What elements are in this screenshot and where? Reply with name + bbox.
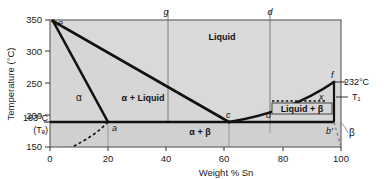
y-tick-350: 350: [26, 14, 42, 25]
region-label-alpha-plus-beta: α + β: [189, 127, 211, 137]
marker-c: [227, 120, 230, 123]
x-axis-title: Weight % Sn: [199, 167, 254, 178]
x-axis-ticks: [50, 147, 341, 151]
point-label-a: a: [112, 123, 117, 133]
region-label-beta: β: [349, 127, 355, 138]
marker-e: [51, 19, 55, 23]
x-tick-20: 20: [103, 153, 114, 164]
y-axis-title: Temperature (°C): [5, 48, 16, 121]
point-label-d-top: d: [267, 7, 273, 17]
y-tick-150: 150: [26, 141, 42, 152]
point-label-c: c: [226, 110, 231, 120]
annotation-eutectic-temp-sub: (Tₑ): [33, 125, 48, 135]
annotation-eutectic-temp: 183°C: [23, 113, 49, 123]
x-tick-100: 100: [333, 153, 349, 164]
phase-diagram-svg: 350 300 250 200 150 0 20 40 60 80 100 Te…: [0, 0, 386, 179]
phase-diagram-figure: 350 300 250 200 150 0 20 40 60 80 100 Te…: [0, 0, 386, 179]
annotation-tie-line-temp: T₁: [352, 92, 361, 102]
y-tick-250: 250: [26, 78, 42, 89]
annotation-tin-melting-temp: 232°C: [344, 77, 370, 87]
leader-line-beta: [341, 122, 348, 133]
x-tick-60: 60: [219, 153, 230, 164]
y-tick-300: 300: [26, 46, 42, 57]
x-tick-40: 40: [161, 153, 172, 164]
region-label-alpha-plus-liquid: α + Liquid: [122, 93, 165, 103]
point-label-b-prime: b': [326, 126, 333, 136]
region-label-alpha: α: [76, 92, 82, 103]
x-tick-0: 0: [47, 153, 52, 164]
point-label-g: g: [163, 7, 168, 17]
region-label-liquid: Liquid: [209, 32, 236, 42]
point-label-x: x: [318, 92, 324, 102]
point-label-e: e: [58, 18, 63, 28]
x-tick-80: 80: [278, 153, 289, 164]
region-label-liquid-plus-beta: Liquid + β: [281, 104, 324, 114]
